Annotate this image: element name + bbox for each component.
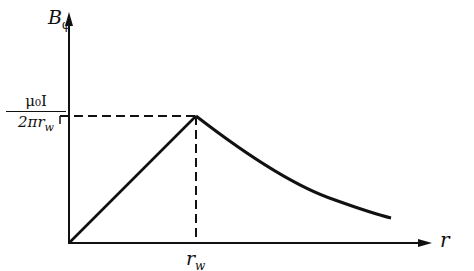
peak-value-label: μ₀I 2πrw (6, 92, 66, 137)
rw-tick-label: rw (186, 247, 205, 271)
outside-field-curve (196, 116, 391, 218)
y-axis-label: Bφ (48, 6, 70, 32)
inside-field-line (70, 116, 196, 242)
field-plot (0, 0, 474, 271)
x-axis-arrow-icon (418, 239, 432, 247)
x-axis-label: r (440, 228, 450, 252)
